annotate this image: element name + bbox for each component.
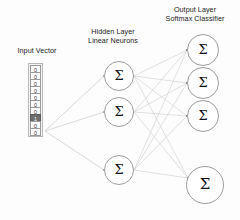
- hidden-output-edge: [134, 112, 187, 116]
- sigma-icon: Σ: [114, 69, 123, 82]
- input-layer-label: Input Vector: [4, 47, 70, 56]
- hidden-layer-label: Hidden Layer Linear Neurons: [78, 28, 148, 45]
- output-neuron: Σ: [186, 166, 224, 204]
- output-neuron: Σ: [187, 34, 219, 66]
- hidden-neuron: Σ: [104, 97, 134, 127]
- hidden-output-edge: [134, 50, 187, 76]
- hidden-output-edge: [134, 50, 187, 112]
- sigma-icon: Σ: [114, 163, 123, 176]
- output-layer-label-line2: Softmax Classifier: [152, 15, 238, 24]
- output-neuron: Σ: [187, 67, 219, 99]
- hidden-output-edge: [134, 170, 188, 178]
- hidden-output-edge: [134, 76, 188, 178]
- hidden-neuron: Σ: [104, 61, 134, 91]
- input-hidden-edge: [45, 131, 104, 170]
- input-vector-cell: 0: [30, 128, 41, 136]
- input-hidden-edge: [45, 76, 104, 131]
- input-layer-label-text: Input Vector: [18, 46, 57, 55]
- hidden-output-edge: [134, 116, 187, 170]
- hidden-output-edge: [134, 83, 187, 112]
- input-vector: 0000000100: [28, 63, 43, 137]
- input-to-hidden-edges: [45, 76, 104, 170]
- output-layer-label: Output Layer Softmax Classifier: [152, 6, 238, 23]
- sigma-icon: Σ: [198, 76, 207, 89]
- sigma-icon: Σ: [198, 43, 207, 56]
- neural-network-diagram: Input Vector Hidden Layer Linear Neurons…: [0, 0, 240, 220]
- input-hidden-edge: [45, 112, 104, 131]
- hidden-to-output-edges: [134, 50, 188, 178]
- sigma-icon: Σ: [198, 109, 207, 122]
- hidden-layer-label-line2: Linear Neurons: [78, 37, 148, 46]
- hidden-output-edge: [134, 112, 188, 178]
- sigma-icon: Σ: [114, 105, 123, 118]
- hidden-neuron: Σ: [104, 155, 134, 185]
- sigma-icon: Σ: [200, 177, 211, 192]
- output-neuron: Σ: [187, 100, 219, 132]
